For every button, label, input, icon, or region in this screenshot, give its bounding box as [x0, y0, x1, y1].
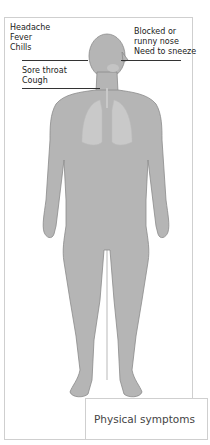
- nose-symptoms-label: Blocked or runny nose Need to sneeze: [134, 27, 196, 57]
- head-shape: [89, 34, 125, 78]
- head-symptoms-label: Headache Fever Chills: [10, 23, 50, 53]
- throat-symptoms-label: Sore throat Cough: [22, 66, 67, 86]
- caption-box: Physical symptoms: [85, 398, 208, 440]
- torso-shape: [43, 90, 169, 397]
- head-leader-line: [22, 60, 88, 61]
- diagram-caption: Physical symptoms: [94, 413, 195, 425]
- nose-leader-line: [121, 60, 181, 61]
- throat-leader-line: [22, 88, 100, 89]
